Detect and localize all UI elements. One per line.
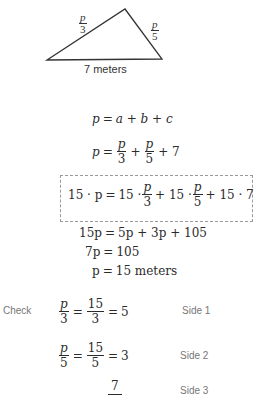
eq1-rhs: a + b + c [116, 112, 173, 126]
equation-substituted: p = p 3 + p 5 + 7 [92, 138, 180, 165]
eq4-rhs: 5p + 3p + 105 [118, 226, 207, 240]
eq5-rhs: 105 [116, 245, 139, 259]
eq4-equals: = [105, 226, 115, 240]
base-label: 7 meters [84, 63, 127, 75]
eq5-equals: = [103, 245, 113, 259]
check-row-2: p 5 = 15 5 = 3 [58, 342, 129, 369]
eq2-lhs: p [92, 145, 100, 159]
eq3-tail: + 15 · 7 [206, 188, 254, 202]
equation-multiplied: 15 · p = 15 · p 3 + 15 · p 5 + 15 · 7 [68, 181, 254, 208]
side-left-label: p 3 [79, 12, 87, 35]
side-right-label: p 5 [151, 19, 159, 42]
check-row-3: 7 [107, 380, 123, 396]
check-side-2: Side 2 [180, 350, 208, 361]
eq4-lhs: 15p [79, 226, 102, 240]
check2-result: 3 [121, 349, 129, 363]
eq6-equals: = [103, 264, 113, 278]
check3-frac: 7 [108, 380, 122, 396]
equation-perimeter: p = a + b + c [92, 112, 173, 126]
check1-frac-b: 15 3 [87, 298, 104, 325]
eq3-frac-p5: p 5 [193, 181, 203, 208]
equation-combined: 7p = 105 [85, 245, 139, 259]
eq2-frac-p3: p 3 [117, 138, 127, 165]
eq2-plus: + [130, 145, 140, 159]
eq3-t2-coef: + 15 · [155, 188, 192, 202]
check2-frac-a: p 5 [59, 342, 69, 369]
eq3-frac-p3: p 3 [142, 181, 152, 208]
eq2-equals: = [103, 145, 113, 159]
check-side-3: Side 3 [180, 385, 208, 396]
eq6-rhs: 15 meters [116, 264, 177, 278]
equation-simplified: 15p = 5p + 3p + 105 [79, 226, 207, 240]
side-left-denominator: 3 [80, 24, 86, 35]
eq1-equals: = [103, 112, 113, 126]
eq5-lhs: 7p [85, 245, 100, 259]
check-label: Check [3, 305, 31, 316]
check1-frac-a: p 3 [59, 298, 69, 325]
triangle-diagram [0, 0, 254, 80]
check-row-1: p 3 = 15 3 = 5 [58, 298, 129, 325]
eq3-t1-coef: 15 · [118, 188, 141, 202]
check-side-1: Side 1 [182, 305, 210, 316]
equation-solution: p = 15 meters [92, 264, 177, 278]
check2-frac-b: 15 5 [87, 342, 104, 369]
eq3-equals: = [105, 188, 115, 202]
eq2-tail: + 7 [158, 145, 180, 159]
eq1-lhs: p [92, 112, 100, 126]
eq2-frac-p5: p 5 [145, 138, 155, 165]
eq3-lhs: 15 · p [68, 188, 102, 202]
eq6-lhs: p [92, 264, 100, 278]
side-right-denominator: 5 [152, 31, 158, 42]
check1-result: 5 [121, 305, 129, 319]
